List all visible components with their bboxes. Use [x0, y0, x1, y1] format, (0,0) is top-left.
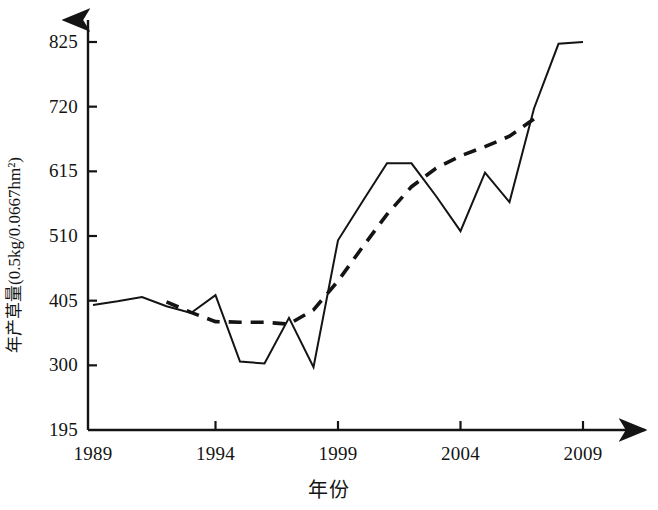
series-line-solid: [93, 42, 583, 367]
data-series: [93, 42, 583, 367]
chart-plot-area: [0, 0, 658, 510]
x-tick-label: 1994: [196, 443, 235, 465]
x-tick-label: 2009: [564, 443, 603, 465]
y-tick-label: 720: [20, 96, 78, 118]
y-tick-label: 405: [20, 290, 78, 312]
y-axis-title: 年产草量(0.5kg/0.0667hm²): [0, 90, 25, 420]
x-tick-label: 1999: [319, 443, 358, 465]
x-tick-label: 2004: [441, 443, 480, 465]
y-tick-label: 300: [20, 354, 78, 376]
x-axis-title: 年份: [0, 474, 658, 503]
axes: [88, 20, 645, 430]
y-tick-label: 510: [20, 225, 78, 247]
y-tick-label: 615: [20, 160, 78, 182]
y-tick-label: 195: [20, 419, 78, 441]
y-tick-label: 825: [20, 31, 78, 53]
line-chart: 195300405510615720825 198919941999200420…: [0, 0, 658, 510]
x-tick-label: 1989: [74, 443, 113, 465]
